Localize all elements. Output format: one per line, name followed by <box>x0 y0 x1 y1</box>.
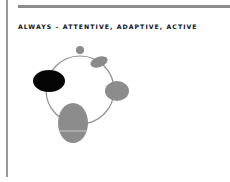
large-ellipse-node <box>58 103 88 143</box>
right-ellipse-node <box>105 81 129 101</box>
small-dot-node <box>76 46 84 54</box>
cycle-diagram <box>0 0 230 182</box>
black-ellipse-node <box>33 70 65 92</box>
